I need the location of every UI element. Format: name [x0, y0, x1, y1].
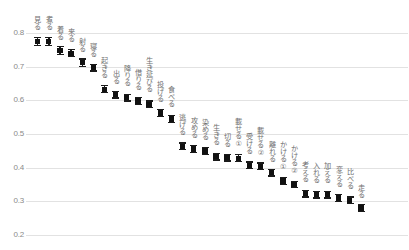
data-point-marker[interactable]	[46, 39, 51, 44]
data-point-marker[interactable]	[236, 156, 241, 161]
data-series: 見る煮る着る来る射る寝る起きる出る降りる借りる生き延びる投げる食べる逃げる攻める…	[0, 0, 409, 250]
error-bar-cap-lower	[124, 100, 131, 101]
error-bar-cap-lower	[235, 161, 242, 162]
data-point-label: 染める	[201, 119, 209, 140]
data-point-marker[interactable]	[303, 191, 308, 196]
error-bar-cap-lower	[146, 107, 153, 108]
data-point-marker[interactable]	[213, 154, 218, 159]
data-point-label: 走る	[357, 184, 365, 198]
data-point-marker[interactable]	[68, 51, 73, 56]
error-bar-cap-lower	[246, 168, 253, 169]
error-bar-cap-lower	[68, 56, 75, 57]
data-point-marker[interactable]	[291, 182, 296, 187]
error-bar-cap-lower	[34, 45, 41, 46]
error-bar-cap-lower	[213, 159, 220, 160]
error-bar-cap-lower	[280, 184, 287, 185]
error-bar-cap-lower	[257, 169, 264, 170]
data-point-marker[interactable]	[180, 144, 185, 149]
data-point-label: 煮る	[45, 16, 53, 30]
data-point-marker[interactable]	[158, 110, 163, 115]
data-point-marker[interactable]	[124, 95, 129, 100]
error-bar-cap-lower	[202, 154, 209, 155]
error-bar-cap-lower	[157, 116, 164, 117]
data-point-label: 借りる	[134, 69, 142, 90]
data-point-marker[interactable]	[325, 192, 330, 197]
data-point-label: 載せる①	[235, 118, 243, 148]
data-point-label: 出る	[112, 70, 120, 84]
data-point-marker[interactable]	[57, 48, 62, 53]
data-point-marker[interactable]	[102, 87, 107, 92]
data-point-label: かける②	[290, 145, 298, 175]
error-bar-cap-lower	[168, 122, 175, 123]
data-point-marker[interactable]	[336, 195, 341, 200]
error-bar-cap-lower	[79, 66, 86, 67]
data-point-label: 生き延びる	[145, 57, 153, 92]
chart-container: 0.80.70.60.50.40.30.2 見る煮る着る来る射る寝る起きる出る降…	[0, 0, 409, 250]
data-point-marker[interactable]	[91, 65, 96, 70]
error-bar-cap-lower	[291, 187, 298, 188]
error-bar-cap-lower	[302, 196, 309, 197]
error-bar-cap-lower	[335, 201, 342, 202]
data-point-label: 考える	[301, 161, 309, 182]
data-point-marker[interactable]	[135, 98, 140, 103]
data-point-label: 載せる②	[257, 127, 265, 157]
data-point-marker[interactable]	[258, 164, 263, 169]
error-bar-cap-lower	[224, 160, 231, 161]
error-bar-cap-lower	[268, 175, 275, 176]
data-point-label: 離れる	[268, 141, 276, 162]
data-point-marker[interactable]	[224, 155, 229, 160]
data-point-marker[interactable]	[80, 60, 85, 65]
data-point-label: 降りる	[123, 65, 131, 86]
data-point-label: 生きる	[212, 124, 220, 145]
data-point-label: 見る	[34, 16, 42, 30]
data-point-label: 比べる	[346, 168, 354, 189]
error-bar-cap-lower	[112, 97, 119, 98]
error-bar-cap-lower	[101, 92, 108, 93]
data-point-label: 寝る	[90, 43, 98, 57]
data-point-marker[interactable]	[314, 192, 319, 197]
data-point-label: 受ける	[246, 133, 254, 154]
data-point-label: 切る	[223, 133, 231, 147]
data-point-marker[interactable]	[280, 178, 285, 183]
data-point-marker[interactable]	[202, 148, 207, 153]
data-point-label: 着る	[56, 26, 64, 40]
data-point-marker[interactable]	[146, 102, 151, 107]
data-point-label: 食べる	[168, 86, 176, 107]
data-point-label: 加える	[324, 162, 332, 183]
data-point-label: 来る	[67, 28, 75, 42]
error-bar-cap-lower	[313, 197, 320, 198]
data-point-marker[interactable]	[269, 170, 274, 175]
error-bar-cap-lower	[179, 149, 186, 150]
data-point-label: 入れる	[313, 162, 321, 183]
error-bar-cap-lower	[90, 70, 97, 71]
data-point-marker[interactable]	[247, 163, 252, 168]
data-point-label: 攻める	[190, 117, 198, 138]
data-point-label: 起きる	[101, 57, 109, 78]
error-bar-cap-lower	[135, 104, 142, 105]
data-point-label: かける①	[279, 141, 287, 171]
data-point-label: 変える	[335, 166, 343, 187]
error-bar-cap-lower	[45, 45, 52, 46]
data-point-label: 射る	[78, 38, 86, 52]
error-bar-cap-lower	[324, 197, 331, 198]
data-point-label: 逃げる	[179, 114, 187, 135]
data-point-marker[interactable]	[113, 92, 118, 97]
data-point-marker[interactable]	[347, 198, 352, 203]
error-bar-cap-lower	[358, 211, 365, 212]
error-bar-cap-lower	[57, 54, 64, 55]
data-point-marker[interactable]	[358, 205, 363, 210]
data-point-marker[interactable]	[35, 39, 40, 44]
data-point-label: 投げる	[157, 81, 165, 102]
error-bar-cap-lower	[347, 203, 354, 204]
data-point-marker[interactable]	[169, 116, 174, 121]
data-point-marker[interactable]	[191, 146, 196, 151]
error-bar-cap-lower	[190, 152, 197, 153]
